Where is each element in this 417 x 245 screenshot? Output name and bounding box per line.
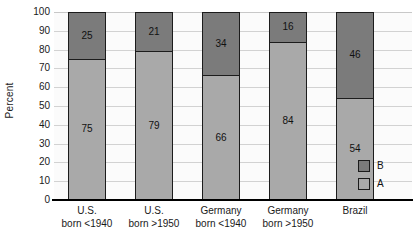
- bar-segment-b[interactable]: 46: [337, 13, 373, 99]
- y-axis-tick-label: 20: [22, 157, 50, 167]
- bar-segment-b[interactable]: 16: [270, 13, 306, 43]
- bar-stack[interactable]: 1684: [269, 12, 307, 200]
- bar-stack[interactable]: 2575: [68, 12, 106, 200]
- bar-stack[interactable]: 3466: [202, 12, 240, 200]
- bar-segment-a[interactable]: 79: [136, 52, 172, 199]
- bar-segment-b[interactable]: 34: [203, 13, 239, 76]
- legend-item-b[interactable]: B: [358, 157, 404, 175]
- bar-value-label: 66: [215, 133, 226, 143]
- chart-legend: BA: [358, 157, 404, 193]
- y-axis-title: Percent: [4, 71, 15, 131]
- legend-label: A: [377, 179, 384, 189]
- y-axis-tick-label: 10: [22, 176, 50, 186]
- y-axis-tick-label: 100: [22, 7, 50, 17]
- bar-value-label: 25: [81, 31, 92, 41]
- bar-segment-b[interactable]: 25: [69, 13, 105, 60]
- bar-value-label: 84: [282, 116, 293, 126]
- stacked-bar-chart: Percent 1009080706050403020100 257521793…: [0, 0, 417, 245]
- x-axis-category-label: Brazil: [308, 204, 402, 217]
- x-axis-line: [52, 199, 413, 201]
- category-label-line2: born >1950: [241, 217, 335, 230]
- y-axis-tick-label: 50: [22, 101, 50, 111]
- legend-item-a[interactable]: A: [358, 175, 404, 193]
- bar-value-label: 54: [349, 144, 360, 154]
- category-label-line1: Brazil: [308, 204, 402, 217]
- bar-stack[interactable]: 2179: [135, 12, 173, 200]
- bar-segment-a[interactable]: 84: [270, 43, 306, 199]
- legend-swatch-a: [358, 178, 370, 190]
- y-axis-tick-labels: 1009080706050403020100: [22, 12, 50, 200]
- bar-value-label: 79: [148, 121, 159, 131]
- y-axis-tick-label: 40: [22, 120, 50, 130]
- bar-value-label: 34: [215, 39, 226, 49]
- y-axis-tick-label: 70: [22, 63, 50, 73]
- bar-segment-b[interactable]: 21: [136, 13, 172, 52]
- legend-swatch-b: [358, 160, 370, 172]
- bar-value-label: 21: [148, 27, 159, 37]
- y-axis-tick-label: 90: [22, 26, 50, 36]
- bar-value-label: 75: [81, 124, 92, 134]
- bar-value-label: 16: [282, 22, 293, 32]
- bar-segment-a[interactable]: 75: [69, 60, 105, 200]
- y-axis-tick-label: 30: [22, 139, 50, 149]
- y-axis-tick-label: 80: [22, 45, 50, 55]
- y-axis-tick-label: 60: [22, 82, 50, 92]
- legend-label: B: [377, 161, 384, 171]
- bar-value-label: 46: [349, 50, 360, 60]
- bar-segment-a[interactable]: 66: [203, 76, 239, 199]
- plot-area: 25752179346616844654 BA: [54, 12, 412, 200]
